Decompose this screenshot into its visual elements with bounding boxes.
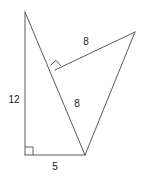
right-angle-mid-icon (51, 60, 61, 65)
upper-slant-edge (55, 32, 135, 70)
label-transversal-lower: 8 (74, 98, 80, 109)
figure-labels: 12 5 8 8 (8, 36, 89, 172)
geometry-figure: 12 5 8 8 (0, 0, 142, 180)
label-upper-slant: 8 (83, 36, 89, 47)
right-long-edge (85, 32, 135, 155)
label-left-leg: 12 (8, 94, 20, 105)
figure-edges (25, 12, 135, 155)
figure-angle-markers (25, 60, 61, 155)
transversal-edge (25, 12, 85, 155)
label-bottom-leg: 5 (52, 161, 58, 172)
figure-canvas: 12 5 8 8 (0, 0, 142, 180)
right-angle-bottom-left-icon (25, 147, 33, 155)
